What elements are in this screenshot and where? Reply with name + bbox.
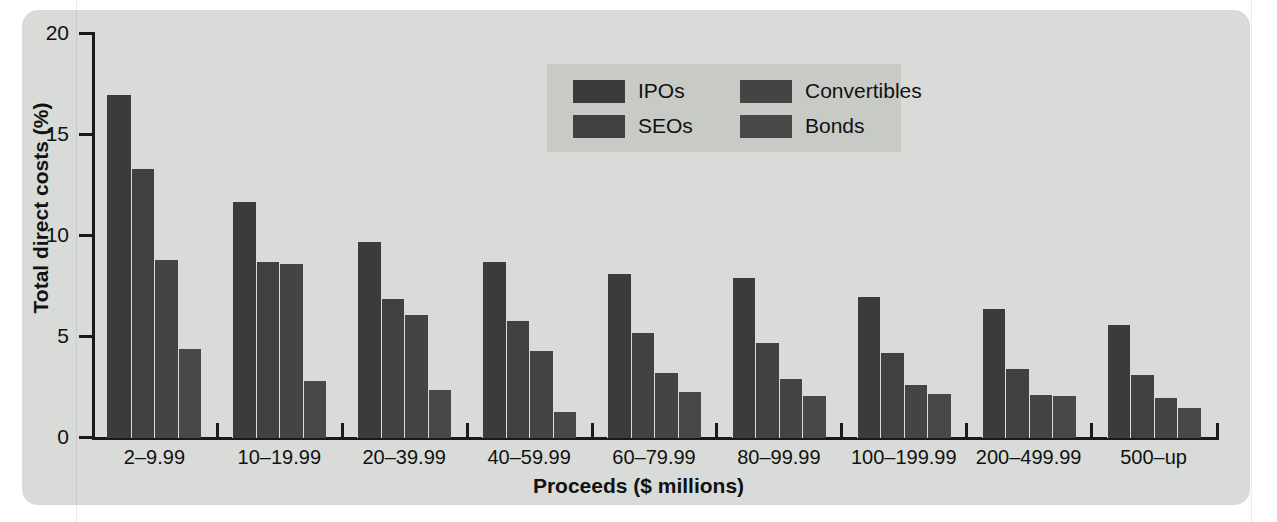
bar <box>1107 325 1131 438</box>
bar <box>506 321 530 438</box>
bar <box>1154 398 1178 438</box>
figure: 05101520 2–9.9910–19.9920–39.9940–59.996… <box>0 0 1277 522</box>
bar <box>256 262 280 438</box>
bar <box>732 278 756 438</box>
legend-swatch-icon <box>740 80 792 103</box>
page-seam-right <box>1251 0 1252 522</box>
y-axis-tick-label: 0 <box>57 426 69 447</box>
bar <box>802 396 826 438</box>
legend-label: SEOs <box>638 114 693 138</box>
bar <box>654 373 678 438</box>
legend: IPOsSEOsConvertiblesBonds <box>547 64 901 152</box>
bar <box>1052 396 1076 438</box>
legend-label: Convertibles <box>805 79 922 103</box>
legend-swatch-icon <box>740 115 792 138</box>
bar <box>279 264 303 438</box>
bar <box>482 262 506 438</box>
bar <box>904 385 928 438</box>
bar <box>154 260 178 438</box>
y-axis-tick-label: 5 <box>57 325 69 346</box>
bar <box>303 381 327 438</box>
bar <box>927 394 951 438</box>
legend-swatch-icon <box>573 115 625 138</box>
bar <box>880 353 904 438</box>
bar <box>107 95 131 438</box>
legend-entry[interactable]: SEOs <box>573 114 693 138</box>
bar <box>982 309 1006 438</box>
legend-label: IPOs <box>638 79 685 103</box>
bar <box>1177 408 1201 438</box>
legend-swatch-icon <box>573 80 625 103</box>
bar <box>381 299 405 438</box>
legend-entry[interactable]: Bonds <box>740 114 865 138</box>
bar <box>232 202 256 438</box>
bar <box>357 242 381 438</box>
bar <box>607 274 631 438</box>
bar <box>428 390 452 438</box>
legend-entry[interactable]: Convertibles <box>740 79 922 103</box>
bar <box>755 343 779 438</box>
bar <box>553 412 577 438</box>
page-seam-left <box>76 0 77 522</box>
bar <box>779 379 803 438</box>
y-axis-title: Total direct costs (%) <box>29 63 53 353</box>
bar <box>678 392 702 438</box>
bar <box>1005 369 1029 438</box>
bar <box>529 351 553 438</box>
bar <box>631 333 655 438</box>
bar <box>1029 395 1053 438</box>
x-axis-tick-label: 500–up <box>1074 446 1234 468</box>
bar <box>131 169 155 438</box>
bar <box>178 349 202 438</box>
y-axis-tick-label: 20 <box>46 22 69 43</box>
x-axis-title: Proceeds ($ millions) <box>0 474 1277 498</box>
bar <box>404 315 428 438</box>
bar <box>1130 375 1154 438</box>
legend-entry[interactable]: IPOs <box>573 79 685 103</box>
legend-label: Bonds <box>805 114 865 138</box>
bar <box>857 297 881 438</box>
